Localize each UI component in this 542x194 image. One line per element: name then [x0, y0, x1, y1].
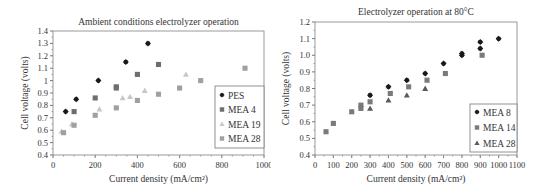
x-tick-label: 700	[437, 160, 450, 170]
triangle-marker	[404, 92, 410, 97]
x-tick-label: 100	[327, 160, 340, 170]
legend-label: MEA 14	[483, 123, 516, 133]
square-marker	[72, 109, 77, 114]
chart-ambient-svg: Ambient conditions electrolyzer operatio…	[0, 0, 271, 194]
x-axis-label: Current density (mA/cm²)	[109, 174, 208, 185]
triangle-marker	[142, 88, 148, 93]
triangle-marker	[367, 105, 373, 110]
square-marker	[323, 129, 328, 134]
y-tick-label: 1.4	[37, 26, 48, 36]
square-marker	[406, 84, 411, 89]
x-tick-label: 600	[173, 160, 186, 170]
x-axis-label: Current density (mA/cm²)	[367, 174, 466, 185]
legend-label: MEA 28	[228, 134, 261, 144]
square-marker	[424, 78, 429, 83]
y-tick-label: 1.2	[299, 17, 310, 27]
x-tick-label: 200	[345, 160, 358, 170]
x-tick-label: 400	[131, 160, 144, 170]
y-tick-label: 1.1	[299, 34, 310, 44]
square-marker	[156, 92, 161, 97]
y-tick-label: 1.0	[299, 50, 310, 60]
square-marker	[220, 136, 224, 140]
legend: MEA 8MEA 14MEA 28	[470, 104, 517, 152]
legend: PESMEA 4MEA 19MEA 28	[215, 86, 264, 148]
square-marker	[135, 72, 140, 77]
y-tick-label: 0.6	[37, 125, 48, 135]
square-marker	[331, 121, 336, 126]
chart-ambient-conditions: Ambient conditions electrolyzer operatio…	[0, 0, 271, 194]
triangle-marker	[183, 71, 189, 76]
y-axis-label: Cell voltage (volts)	[20, 56, 31, 129]
y-tick-label: 1.3	[37, 38, 48, 48]
square-marker	[220, 107, 224, 111]
x-tick-label: 1000	[256, 160, 272, 170]
square-marker	[135, 98, 140, 103]
square-marker	[198, 78, 203, 83]
x-tick-label: 300	[364, 160, 377, 170]
x-tick-label: 400	[382, 160, 395, 170]
square-marker	[358, 103, 363, 108]
square-marker	[443, 71, 448, 76]
chart-title: Electrolyzer operation at 80°C	[358, 7, 474, 17]
series-mea-14	[323, 53, 484, 135]
x-tick-label: 800	[215, 160, 228, 170]
y-tick-label: 1	[44, 76, 48, 86]
chart-80c-operation: Electrolyzer operation at 80°C0.40.50.60…	[271, 0, 542, 194]
square-marker	[388, 91, 393, 96]
square-marker	[72, 123, 77, 128]
legend-label: MEA 28	[483, 139, 516, 149]
square-marker	[368, 99, 373, 104]
chart-title: Ambient conditions electrolyzer operatio…	[78, 17, 239, 27]
legend-label: MEA 8	[483, 108, 511, 118]
y-tick-label: 0.8	[37, 100, 48, 110]
triangle-marker	[120, 95, 126, 100]
square-marker	[114, 84, 119, 89]
triangle-marker	[127, 94, 133, 99]
square-marker	[93, 95, 98, 100]
y-tick-label: 0.9	[299, 67, 310, 77]
square-marker	[93, 113, 98, 118]
series-mea-28	[367, 86, 428, 111]
y-tick-label: 0.4	[37, 150, 48, 160]
y-tick-label: 0.6	[299, 117, 310, 127]
square-marker	[349, 109, 354, 114]
x-tick-label: 900	[474, 160, 487, 170]
x-tick-label: 0	[51, 160, 55, 170]
square-marker	[480, 53, 485, 58]
y-tick-label: 1.1	[37, 63, 48, 73]
y-tick-label: 0.7	[299, 100, 310, 110]
y-tick-label: 0.4	[299, 150, 310, 160]
triangle-marker	[385, 97, 391, 102]
x-tick-label: 800	[456, 160, 469, 170]
y-tick-label: 1.2	[37, 51, 48, 61]
x-tick-label: 1000	[490, 160, 507, 170]
y-axis-label: Cell voltage (volts)	[281, 52, 292, 125]
y-tick-label: 0.7	[37, 113, 48, 123]
legend-label: MEA 19	[228, 120, 261, 130]
y-tick-label: 0.8	[299, 84, 310, 94]
square-marker	[177, 85, 182, 90]
series-pes	[63, 40, 151, 114]
square-marker	[475, 125, 479, 129]
x-tick-label: 1100	[509, 160, 526, 170]
square-marker	[242, 66, 247, 71]
x-tick-label: 600	[419, 160, 432, 170]
x-tick-label: 200	[89, 160, 102, 170]
x-tick-label: 500	[400, 160, 413, 170]
legend-label: PES	[228, 91, 244, 101]
series-mea-8	[367, 36, 502, 99]
y-tick-label: 0.5	[37, 138, 48, 148]
series-mea-19	[58, 71, 188, 133]
chart-80c-svg: Electrolyzer operation at 80°C0.40.50.60…	[271, 0, 542, 194]
triangle-marker	[422, 86, 428, 91]
y-tick-label: 0.9	[37, 88, 48, 98]
triangle-marker	[96, 106, 102, 111]
square-marker	[61, 130, 66, 135]
x-tick-label: 0	[313, 160, 317, 170]
legend-label: MEA 4	[228, 105, 256, 115]
y-tick-label: 0.5	[299, 133, 310, 143]
square-marker	[156, 62, 161, 67]
square-marker	[114, 105, 119, 110]
